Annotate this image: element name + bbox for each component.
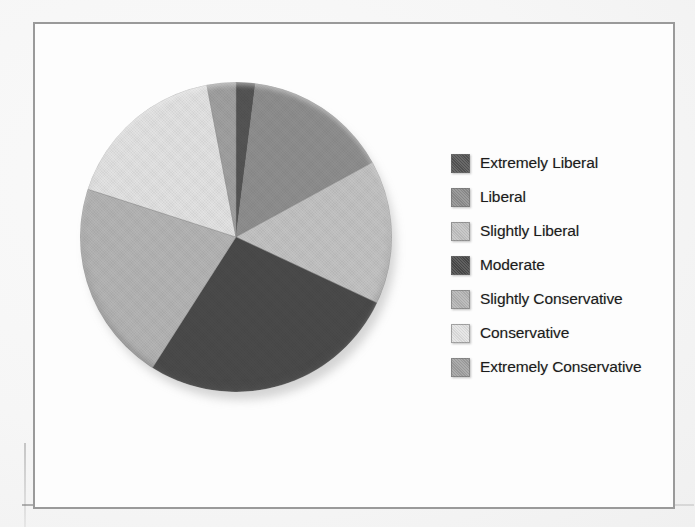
pie-slices [80, 82, 392, 392]
legend-swatch-icon [451, 188, 470, 207]
legend-item: Extremely Conservative [451, 350, 677, 384]
legend-item: Liberal [451, 180, 677, 214]
legend-swatch-icon [451, 358, 470, 377]
scan-artifact-vertical-line [24, 443, 26, 527]
legend-swatch-icon [451, 290, 470, 309]
legend-item: Moderate [451, 248, 677, 282]
legend-item: Slightly Liberal [451, 214, 677, 248]
legend-item-label: Conservative [480, 324, 569, 342]
legend-item-label: Slightly Liberal [480, 222, 579, 240]
legend-item-label: Extremely Conservative [480, 358, 641, 376]
legend-swatch-icon [451, 222, 470, 241]
legend-swatch-icon [451, 256, 470, 275]
legend-item-label: Liberal [480, 188, 526, 206]
legend-swatch-icon [451, 154, 470, 173]
legend-item: Extremely Liberal [451, 146, 677, 180]
legend-swatch-icon [451, 324, 470, 343]
scanned-page: Extremely Liberal Liberal Slightly Liber… [0, 0, 695, 527]
legend-item-label: Slightly Conservative [480, 290, 623, 308]
chart-frame: Extremely Liberal Liberal Slightly Liber… [33, 22, 675, 509]
legend-item-label: Moderate [480, 256, 545, 274]
pie-chart [80, 82, 400, 402]
legend: Extremely Liberal Liberal Slightly Liber… [451, 146, 677, 384]
legend-item: Conservative [451, 316, 677, 350]
pie-canvas-container [80, 82, 392, 392]
legend-item: Slightly Conservative [451, 282, 677, 316]
legend-item-label: Extremely Liberal [480, 154, 598, 172]
